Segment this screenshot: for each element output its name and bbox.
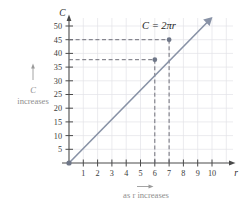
x-tick-label-8: 8	[181, 169, 185, 178]
x-increases-annotation: as r increases	[123, 185, 169, 200]
y-tick-label-35: 35	[54, 63, 62, 72]
y-tick-label-20: 20	[54, 104, 62, 113]
x-axis-name-label: r	[234, 168, 238, 178]
y-axis	[67, 15, 72, 164]
x-tick-label-10: 10	[208, 169, 216, 178]
data-point-markers	[66, 37, 171, 165]
y-tick-label-50: 50	[54, 22, 62, 31]
y-tick-label-30: 30	[54, 77, 62, 86]
point-c45	[167, 37, 172, 42]
x-tick-label-4: 4	[124, 169, 128, 178]
x-axis	[62, 161, 236, 166]
equation-label: C = 2πr	[142, 20, 177, 31]
x-tick-label-3: 3	[110, 169, 114, 178]
chart-canvas: 5 10 15 20 25 30 35 40 45 50 1 2 3 4 5 6…	[0, 0, 251, 207]
y-tick-label-10: 10	[54, 132, 62, 141]
x-tick-label-7: 7	[167, 169, 171, 178]
x-tick-label-1: 1	[81, 169, 85, 178]
y-tick-label-15: 15	[54, 118, 62, 127]
y-increases-word: increases	[17, 96, 49, 106]
up-arrow-icon	[31, 64, 35, 69]
x-increases-label: as r increases	[123, 190, 169, 200]
y-tick-label-40: 40	[54, 49, 62, 58]
point-origin	[66, 160, 71, 165]
y-tick-label-45: 45	[54, 36, 62, 45]
y-increases-annotation: C increases	[17, 64, 49, 107]
point-r6	[152, 57, 157, 62]
y-tick-label-25: 25	[54, 90, 62, 99]
x-tick-label-6: 6	[153, 169, 157, 178]
grid-horizontal-lines	[69, 26, 233, 149]
x-tick-label-5: 5	[138, 169, 142, 178]
y-axis-name-label: C	[59, 8, 66, 18]
x-tick-label-2: 2	[96, 169, 100, 178]
x-tick-label-9: 9	[196, 169, 200, 178]
y-tick-label-5: 5	[58, 145, 62, 154]
right-arrow-icon	[149, 185, 154, 189]
circumference-radius-figure: 5 10 15 20 25 30 35 40 45 50 1 2 3 4 5 6…	[0, 0, 251, 207]
y-increases-symbol: C	[30, 85, 36, 95]
